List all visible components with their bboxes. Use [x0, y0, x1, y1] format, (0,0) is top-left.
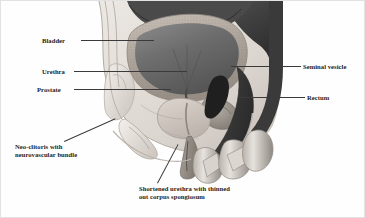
label-urethra: Urethra [42, 68, 65, 76]
label-shortened-urethra-line2: out corpus spongiosum [139, 193, 230, 201]
label-shortened-urethra: Shortened urethra with thinned out corpu… [139, 185, 230, 200]
leader-line-prostate [74, 89, 171, 90]
label-rectum: Rectum [307, 94, 329, 102]
prostate [157, 98, 210, 139]
leader-line-seminal-vesicle [231, 66, 301, 67]
label-neoclitoris: Neo-clitoris with neurovascular bundle [15, 143, 77, 158]
label-neoclitoris-line2: neurovascular bundle [15, 151, 77, 159]
leader-line-rectum [239, 97, 305, 98]
anatomical-figure: Bladder Urethra Prostate Seminal vesicle… [0, 0, 365, 218]
label-neoclitoris-line1: Neo-clitoris with [15, 143, 77, 151]
label-prostate: Prostate [37, 86, 61, 94]
label-seminal-vesicle: Seminal vesicle [303, 63, 346, 71]
label-bladder: Bladder [42, 37, 65, 45]
leader-line-urethra [74, 71, 187, 72]
leader-line-bladder [81, 40, 154, 41]
label-shortened-urethra-line1: Shortened urethra with thinned [139, 185, 230, 193]
